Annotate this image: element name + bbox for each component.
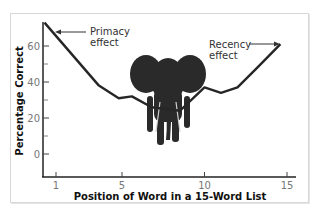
serial-position-chart: 0204060 151015 Primacy effect Recency ef… [0, 0, 318, 214]
svg-text:effect: effect [90, 37, 119, 48]
y-axis-title: Percentage Correct [14, 46, 25, 156]
y-tick-label: 20 [27, 113, 40, 124]
svg-text:Recency: Recency [209, 39, 251, 50]
svg-text:effect: effect [209, 50, 238, 61]
recency-annotation: Recency effect [209, 39, 280, 61]
x-axis-title: Position of Word in a 15-Word List [74, 191, 267, 202]
x-tick-label: 5 [119, 180, 125, 191]
x-ticks: 151015 [53, 172, 294, 191]
arrow-left-icon [55, 30, 61, 35]
elephant-icon [130, 55, 206, 145]
y-tick-label: 0 [34, 149, 40, 160]
x-tick-label: 15 [281, 180, 294, 191]
x-tick-label: 1 [53, 180, 59, 191]
svg-text:Primacy: Primacy [90, 26, 130, 37]
y-tick-label: 40 [27, 77, 40, 88]
primacy-annotation: Primacy effect [55, 26, 130, 48]
x-tick-label: 10 [198, 180, 211, 191]
y-ticks: 0204060 [27, 41, 49, 160]
y-tick-label: 60 [27, 41, 40, 52]
